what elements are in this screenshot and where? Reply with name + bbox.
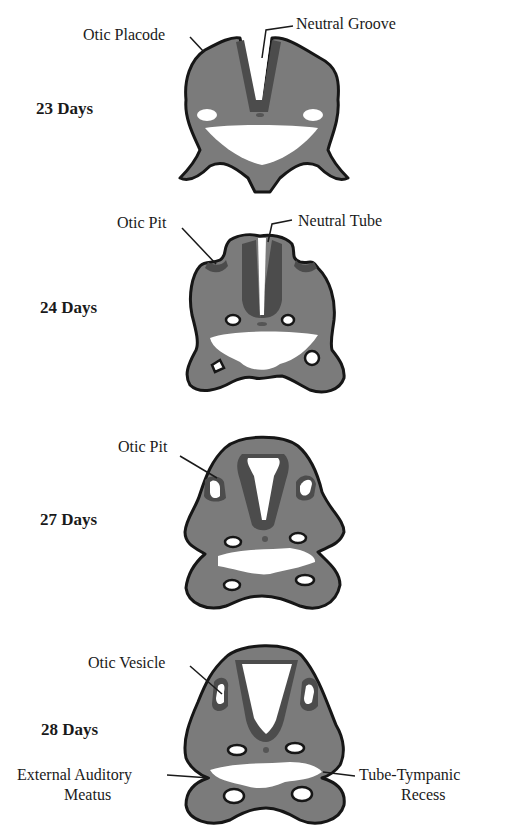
day-label-23: 23 Days: [36, 99, 93, 119]
label-otic-pit-27: Otic Pit: [118, 438, 167, 456]
day-label-27: 27 Days: [40, 510, 97, 530]
stage-24-days: Otic Pit Neutral Tube 24 Days: [0, 200, 509, 415]
stage-28-days: Otic Vesicle 28 Days External Auditory M…: [0, 630, 509, 838]
label-neutral-tube: Neutral Tube: [298, 212, 382, 230]
label-otic-vesicle: Otic Vesicle: [88, 654, 165, 672]
stage-27-days: Otic Pit 27 Days: [0, 420, 509, 630]
stage-23-days: Otic Placode Neutral Groove 23 Days: [0, 0, 509, 200]
label-neutral-groove: Neutral Groove: [296, 15, 396, 33]
label-otic-pit: Otic Pit: [117, 214, 166, 232]
label-tube-tympanic: Tube-Tympanic: [359, 766, 460, 784]
day-label-28: 28 Days: [41, 720, 98, 740]
label-external-auditory: External Auditory: [17, 766, 132, 784]
label-recess: Recess: [401, 786, 445, 804]
label-meatus: Meatus: [64, 786, 111, 804]
label-otic-placode: Otic Placode: [83, 26, 165, 44]
day-label-24: 24 Days: [40, 298, 97, 318]
